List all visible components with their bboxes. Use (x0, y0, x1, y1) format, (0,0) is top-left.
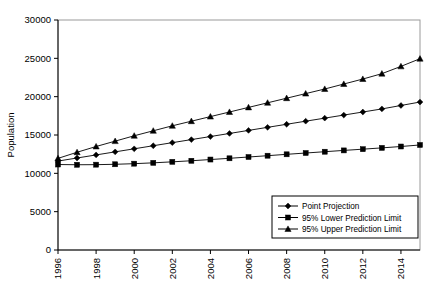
data-point-square (322, 149, 327, 154)
y-tick-label: 25000 (25, 53, 51, 64)
legend-label: Point Projection (302, 202, 360, 211)
x-tick-label: 2002 (167, 258, 178, 279)
data-point-square (398, 144, 403, 149)
y-tick-label: 5000 (30, 206, 51, 217)
x-tick-label: 1998 (91, 258, 102, 279)
data-point-square (341, 148, 346, 153)
data-point-square (379, 145, 384, 150)
legend-label: 95% Lower Prediction Limit (302, 214, 402, 223)
legend: Point Projection95% Lower Prediction Lim… (272, 196, 418, 238)
y-tick-label: 0 (46, 244, 51, 255)
x-tick-label: 2000 (129, 258, 140, 279)
y-tick-label: 10000 (25, 168, 51, 179)
data-point-square (132, 161, 137, 166)
y-tick-label: 15000 (25, 129, 51, 140)
y-axis-title: Population (5, 113, 16, 158)
data-point-square (418, 142, 423, 147)
x-tick-label: 2010 (319, 258, 330, 279)
x-tick-label: 2004 (205, 258, 216, 279)
data-point-square (189, 158, 194, 163)
x-tick-label: 2008 (281, 258, 292, 279)
data-point-square (56, 162, 61, 167)
x-axis-ticks: 1996199820002002200420062008201020122014 (52, 250, 406, 279)
data-point-square (208, 157, 213, 162)
data-point-square (94, 162, 99, 167)
x-tick-label: 2012 (357, 258, 368, 279)
data-point-square (170, 159, 175, 164)
y-tick-label: 20000 (25, 91, 51, 102)
chart-canvas: 0500010000150002000025000300001996199820… (0, 0, 440, 290)
data-point-square (360, 147, 365, 152)
data-point-square (265, 153, 270, 158)
data-point-square (113, 162, 118, 167)
data-point-square (227, 156, 232, 161)
y-tick-label: 30000 (25, 14, 51, 25)
data-point-square (284, 152, 289, 157)
x-tick-label: 2014 (395, 258, 406, 279)
data-point-square (303, 151, 308, 156)
data-point-square (151, 160, 156, 165)
data-point-square (286, 215, 291, 220)
population-projection-chart: 0500010000150002000025000300001996199820… (0, 0, 440, 290)
data-point-square (246, 155, 251, 160)
y-axis-ticks: 050001000015000200002500030000 (25, 14, 58, 255)
legend-label: 95% Upper Prediction Limit (302, 225, 402, 234)
x-tick-label: 1996 (52, 258, 63, 279)
data-point-square (75, 162, 80, 167)
x-tick-label: 2006 (243, 258, 254, 279)
